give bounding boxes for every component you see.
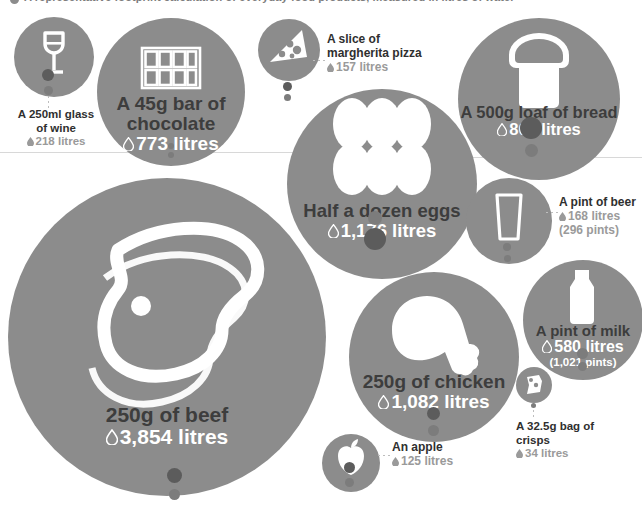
scale-dot-beef-large: [167, 468, 182, 483]
bubble-beef[interactable]: 250g of beef 3,854 litres: [8, 178, 326, 496]
wine-glass-icon: [14, 17, 94, 97]
label-milk-line1: A pint of milk: [523, 323, 642, 339]
label-pizza-line1: A slice of: [327, 32, 422, 46]
label-crisps: A 32.5g bag of crisps 34 litres: [516, 420, 594, 461]
value-eggs-unit: litres: [392, 220, 436, 241]
water-drop-icon: [106, 429, 118, 445]
scale-dot-milk-small: [578, 362, 587, 371]
crisps-bag-icon: [516, 367, 552, 403]
scale-dot-eggs-large: [364, 228, 386, 250]
label-wine-line2: of wine: [10, 122, 102, 136]
water-drop-icon: [327, 63, 334, 72]
value-bread-unit: litres: [541, 120, 580, 138]
bubble-bread[interactable]: A 500g loaf of bread 804 litres: [458, 18, 620, 180]
value-pizza-number: 157: [336, 60, 356, 74]
water-drop-icon: [516, 449, 523, 458]
value-beef-number: 3,854: [120, 425, 173, 448]
scale-dot-bread-small: [525, 144, 538, 157]
label-wine-line1: A 250ml glass: [10, 108, 102, 122]
scale-dot-beef-small: [169, 489, 180, 500]
scale-dot-chocolate-large: [168, 143, 174, 149]
bubble-beer[interactable]: [466, 178, 552, 264]
label-apple-line1: An apple: [392, 440, 453, 454]
water-drop-icon: [392, 457, 399, 466]
value-wine-unit: litres: [58, 135, 86, 147]
leader-pizza: [313, 60, 327, 61]
water-drop-icon: [378, 395, 389, 409]
water-drop-icon: [27, 137, 34, 146]
value-beer-unit: litres: [591, 209, 620, 223]
beer-glass-icon: [466, 178, 552, 264]
label-crisps-line2: crisps: [516, 434, 594, 448]
label-beef-line1: 250g of beef: [8, 404, 326, 426]
label-bread-line1: A 500g loaf of bread: [458, 104, 620, 121]
scale-dot-chicken-small: [428, 425, 439, 436]
label-wine: A 250ml glass of wine 218 litres: [10, 108, 102, 149]
scale-dot-apple-small: [345, 478, 354, 487]
value-crisps-number: 34: [525, 447, 538, 459]
value-apple: 125 litres: [392, 454, 453, 468]
water-drop-icon: [559, 212, 566, 221]
leader-wine: [48, 96, 49, 108]
bubble-crisps[interactable]: [516, 367, 552, 403]
pizza-slice-icon: [258, 19, 320, 81]
label-beer-line1: A pint of beer: [559, 195, 636, 209]
value-chocolate-number: 773: [136, 133, 168, 154]
value-wine-number: 218: [36, 135, 55, 147]
header-strip: A representative footprint calculation o…: [0, 0, 642, 7]
scale-dot-chicken-large: [427, 407, 440, 420]
water-drop-icon: [497, 123, 507, 136]
value-beer-number: 168: [568, 209, 588, 223]
value-apple-unit: litres: [424, 454, 453, 468]
infographic-canvas: A representative footprint calculation o…: [0, 0, 642, 505]
leader-beer: [546, 212, 558, 213]
scale-dot-beer-large: [503, 243, 511, 251]
leader-crisps: [533, 410, 534, 420]
scale-dot-wine-large: [42, 69, 54, 81]
label-pizza: A slice of margherita pizza 157 litres: [327, 32, 422, 74]
scale-dot-apple-large: [344, 462, 355, 473]
scale-dot-crisps-large: [531, 403, 536, 408]
label-crisps-line1: A 32.5g bag of: [516, 420, 594, 434]
bubble-wine[interactable]: [14, 17, 94, 97]
value-milk-unit: litres: [585, 338, 623, 355]
label-chocolate-line2: chocolate: [97, 114, 245, 134]
bullet-dot-icon: [10, 0, 19, 4]
scale-dot-bread-large: [520, 117, 542, 139]
leader-apple: [378, 455, 392, 456]
value-crisps-unit: litres: [541, 447, 569, 459]
scale-dot-chocolate-small: [168, 152, 174, 158]
scale-dot-milk-large: [577, 348, 588, 359]
scale-dot-beer-small: [504, 255, 511, 262]
value-crisps: 34 litres: [516, 447, 594, 461]
label-beer: A pint of beer 168 litres (296 pints): [559, 195, 636, 237]
value-apple-number: 125: [401, 454, 421, 468]
value-beef: 3,854 litres: [8, 426, 326, 448]
water-drop-icon: [542, 340, 552, 353]
value-pizza-unit: litres: [359, 60, 388, 74]
scale-dot-eggs-small: [368, 211, 382, 225]
value-pizza: 157 litres: [327, 60, 422, 74]
value-beer-secondary: (296 pints): [559, 223, 636, 237]
label-chicken-line1: 250g of chicken: [349, 372, 519, 392]
label-apple: An apple 125 litres: [392, 440, 453, 468]
scale-dot-wine-small: [44, 86, 53, 95]
bread-loaf-icon: [458, 18, 620, 180]
value-chocolate-unit: litres: [173, 133, 218, 154]
water-drop-icon: [328, 224, 339, 238]
bubble-pizza[interactable]: [258, 19, 320, 81]
value-beef-unit: litres: [178, 425, 228, 448]
header-title: A representative footprint calculation o…: [24, 0, 515, 3]
value-chicken-unit: litres: [444, 391, 489, 412]
label-chocolate-line1: A 45g bar of: [97, 94, 245, 114]
value-beer: 168 litres: [559, 209, 636, 223]
water-drop-icon: [123, 137, 134, 151]
value-wine: 218 litres: [10, 135, 102, 149]
label-beef: 250g of beef 3,854 litres: [8, 404, 326, 449]
label-pizza-line2: margherita pizza: [327, 46, 422, 60]
